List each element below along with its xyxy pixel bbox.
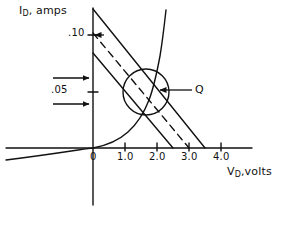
x-axis-label: VD,volts xyxy=(227,166,272,179)
q-point-label: Q xyxy=(195,84,204,95)
plot-canvas xyxy=(0,0,293,227)
x-tick-label-40: 4.0 xyxy=(213,152,230,162)
x-tick-label-10: 1.0 xyxy=(117,152,134,162)
x-tick-label-20: 2.0 xyxy=(149,152,166,162)
x-tick-label-30: 3.0 xyxy=(181,152,198,162)
diode-load-line-figure: ID, amps VD,volts .10 .05 0 1.0 2.0 3.0 … xyxy=(0,0,293,227)
y-axis-label: ID, amps xyxy=(19,5,67,18)
load-line-maximum xyxy=(93,9,205,148)
y-tick-label-005: .05 xyxy=(51,85,68,95)
x-axis-label-rest: ,volts xyxy=(241,165,272,178)
y-tick-label-010: .10 xyxy=(68,28,85,38)
x-axis-label-main: V xyxy=(227,165,235,178)
diode-characteristic-curve xyxy=(6,10,166,160)
x-tick-label-0: 0 xyxy=(90,152,97,162)
y-axis-label-rest: , amps xyxy=(29,4,67,17)
load-line-minimum xyxy=(93,53,173,148)
